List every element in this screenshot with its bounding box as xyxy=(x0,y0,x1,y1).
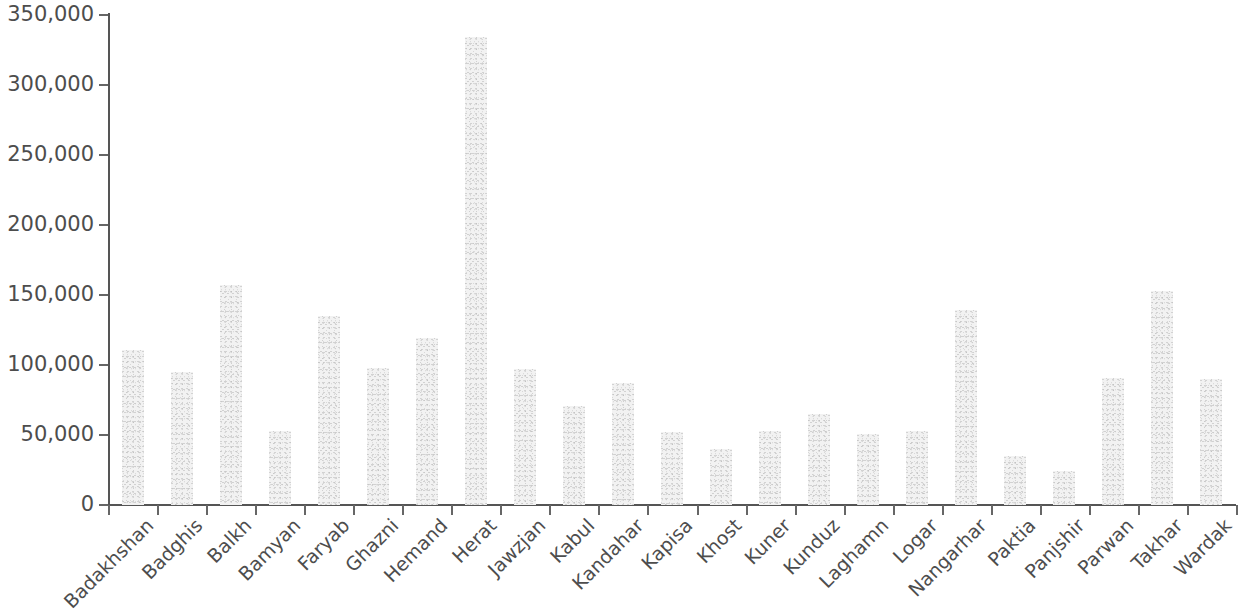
y-axis-tick-label: 350,000 xyxy=(7,2,94,26)
y-axis-tick-mark xyxy=(99,434,108,436)
x-axis-tick-mark xyxy=(991,505,993,515)
x-axis-category-label: Kapisa xyxy=(637,514,697,574)
x-axis-tick-mark xyxy=(1138,505,1140,515)
x-axis-tick-mark xyxy=(353,505,355,515)
x-axis-tick-mark xyxy=(795,505,797,515)
y-axis-tick-label: 0 xyxy=(81,492,94,516)
y-axis-tick-mark xyxy=(99,224,108,226)
y-axis-tick-mark xyxy=(99,84,108,86)
bar-chart: 050,000100,000150,000200,000250,000300,0… xyxy=(0,0,1243,609)
bar[interactable] xyxy=(857,434,879,505)
y-axis-tick-mark xyxy=(99,14,108,16)
bar[interactable] xyxy=(1053,471,1075,505)
bar[interactable] xyxy=(808,414,830,505)
y-axis-tick-mark xyxy=(99,364,108,366)
x-axis-tick-mark xyxy=(746,505,748,515)
bar[interactable] xyxy=(220,285,242,505)
x-axis-tick-mark xyxy=(255,505,257,515)
x-axis-tick-mark xyxy=(1089,505,1091,515)
y-axis-tick-label: 100,000 xyxy=(7,352,94,376)
bar[interactable] xyxy=(318,316,340,505)
bar[interactable] xyxy=(955,310,977,505)
bar[interactable] xyxy=(612,383,634,505)
x-axis-tick-mark xyxy=(893,505,895,515)
x-axis-tick-mark xyxy=(206,505,208,515)
x-axis-tick-mark xyxy=(598,505,600,515)
y-axis-tick-label: 200,000 xyxy=(7,212,94,236)
y-axis-tick-mark xyxy=(99,154,108,156)
bar[interactable] xyxy=(759,431,781,505)
y-axis-tick-label: 50,000 xyxy=(21,422,94,446)
y-axis-tick-label: 250,000 xyxy=(7,142,94,166)
x-axis-tick-mark xyxy=(157,505,159,515)
y-axis-tick-mark xyxy=(99,504,108,506)
bar[interactable] xyxy=(1004,456,1026,505)
x-axis-tick-mark xyxy=(1236,505,1238,515)
bar[interactable] xyxy=(563,406,585,505)
bar[interactable] xyxy=(122,350,144,505)
x-axis-category-label: Faryab xyxy=(293,514,354,575)
x-axis-tick-mark xyxy=(108,505,110,515)
x-axis-tick-mark xyxy=(1187,505,1189,515)
x-axis-tick-mark xyxy=(402,505,404,515)
bar[interactable] xyxy=(171,372,193,505)
x-axis-tick-mark xyxy=(844,505,846,515)
bar[interactable] xyxy=(710,449,732,505)
x-axis-tick-mark xyxy=(549,505,551,515)
bar[interactable] xyxy=(269,431,291,505)
bar[interactable] xyxy=(367,368,389,505)
x-axis-category-label: Khost xyxy=(692,514,745,567)
bar[interactable] xyxy=(514,369,536,505)
x-axis-tick-mark xyxy=(942,505,944,515)
plot-area xyxy=(108,15,1236,505)
x-axis-tick-mark xyxy=(304,505,306,515)
y-axis: 050,000100,000150,000200,000250,000300,0… xyxy=(0,0,108,609)
bar[interactable] xyxy=(1200,379,1222,505)
bar[interactable] xyxy=(465,37,487,505)
y-axis-tick-label: 300,000 xyxy=(7,72,94,96)
x-axis-tick-mark xyxy=(451,505,453,515)
bar[interactable] xyxy=(1151,291,1173,505)
y-axis-tick-label: 150,000 xyxy=(7,282,94,306)
x-axis-tick-mark xyxy=(697,505,699,515)
bar[interactable] xyxy=(416,338,438,505)
x-axis-tick-mark xyxy=(500,505,502,515)
y-axis-tick-mark xyxy=(99,294,108,296)
bar[interactable] xyxy=(661,432,683,505)
x-axis-tick-mark xyxy=(647,505,649,515)
bar[interactable] xyxy=(1102,378,1124,505)
bar[interactable] xyxy=(906,431,928,505)
x-axis-tick-mark xyxy=(1040,505,1042,515)
